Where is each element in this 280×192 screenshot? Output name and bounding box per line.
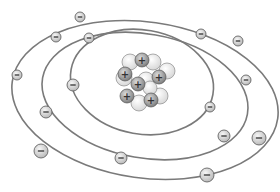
atom-diagram: ++++++ [0, 0, 280, 192]
electron [34, 144, 48, 158]
plus-sign-icon: + [138, 55, 146, 66]
proton: + [144, 93, 158, 107]
plus-sign-icon: + [155, 72, 163, 83]
electron [233, 36, 243, 46]
electron [40, 106, 52, 118]
plus-sign-icon: + [123, 91, 131, 102]
proton: + [131, 77, 145, 91]
electron [200, 168, 214, 182]
proton: + [135, 53, 149, 67]
electron [205, 102, 215, 112]
plus-sign-icon: + [147, 95, 155, 106]
plus-sign-icon: + [121, 69, 129, 80]
electron [218, 130, 230, 142]
electron [196, 29, 206, 39]
electron [84, 33, 94, 43]
electron [51, 32, 61, 42]
electron [115, 152, 127, 164]
electron [12, 70, 22, 80]
proton: + [120, 89, 134, 103]
electron [67, 79, 79, 91]
electron [252, 131, 266, 145]
atom-canvas: ++++++ [0, 0, 280, 192]
nucleus: ++++++ [116, 53, 175, 111]
plus-sign-icon: + [134, 79, 142, 90]
electron [75, 12, 85, 22]
proton: + [152, 70, 166, 84]
electron [241, 75, 251, 85]
proton: + [118, 67, 132, 81]
